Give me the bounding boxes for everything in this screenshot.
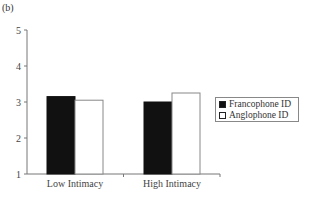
y-tick-label: 4 bbox=[16, 61, 21, 72]
bar-anglophone-id bbox=[75, 100, 103, 174]
legend-swatch-filled-icon bbox=[219, 101, 226, 108]
legend-item-francophone: Francophone ID bbox=[219, 99, 298, 110]
y-tick-label: 5 bbox=[16, 25, 21, 36]
bar-anglophone-id bbox=[172, 93, 200, 174]
y-tick-label: 1 bbox=[16, 169, 21, 180]
legend-label: Francophone ID bbox=[229, 99, 291, 110]
y-tick-label: 2 bbox=[16, 133, 21, 144]
legend-item-anglophone: Anglophone ID bbox=[219, 110, 298, 121]
legend: Francophone ID Anglophone ID bbox=[215, 97, 299, 122]
x-category-label: Low Intimacy bbox=[47, 178, 103, 189]
legend-label: Anglophone ID bbox=[229, 110, 288, 121]
bar-francophone-id bbox=[144, 102, 172, 174]
x-category-label: High Intimacy bbox=[143, 178, 201, 189]
legend-swatch-empty-icon bbox=[219, 112, 226, 119]
y-tick-label: 3 bbox=[16, 97, 21, 108]
bar-francophone-id bbox=[47, 97, 75, 174]
